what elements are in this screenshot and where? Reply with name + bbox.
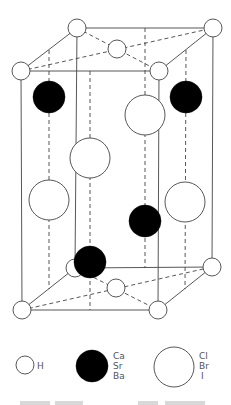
legend-label-ba: Ba [113,371,125,381]
legend-metal-icon [76,350,108,382]
edge-bottom-left [22,268,75,310]
atom-hydride [150,62,168,80]
atom-hydride [68,19,86,37]
atom-metal [74,246,106,278]
atom-metal [170,81,202,113]
hydride-atoms [12,19,222,319]
unit-cell-edges [21,28,213,310]
legend-hydride-icon [16,356,34,374]
caption-fragment [55,401,83,405]
atom-hydride [12,62,30,80]
crystal-structure-diagram: H Ca Sr Ba Cl Br I [0,0,231,405]
legend-item-halide: Cl Br I [154,347,209,387]
atom-halide [165,182,205,222]
legend-label-sr: Sr [113,361,123,371]
atom-hydride [13,301,31,319]
legend-label-i: I [201,371,204,381]
legend: H Ca Sr Ba Cl Br I [16,347,209,387]
atom-hydride [149,301,167,319]
cropped-caption [20,401,205,405]
atom-hydride [204,19,222,37]
caption-fragment [165,401,205,405]
atom-metal [129,205,161,237]
atom-hydride [203,258,221,276]
legend-halide-icon [154,347,194,387]
edge-vertical-front-left [21,71,22,310]
halide-atoms [29,95,205,222]
legend-label-ca: Ca [113,351,125,361]
atom-halide [125,95,165,135]
atom-halide [70,138,110,178]
atom-hydride [107,279,125,297]
caption-fragment [138,401,158,405]
legend-label-cl: Cl [199,351,208,361]
legend-label-br: Br [199,361,209,371]
edge-vertical-back-right [212,28,213,267]
atom-halide [29,180,69,220]
atom-metal [33,81,65,113]
atom-hydride [108,40,126,58]
legend-item-metal: Ca Sr Ba [76,350,125,382]
legend-item-hydride: H [16,356,44,374]
caption-fragment [20,401,50,405]
legend-label-h: H [37,361,44,371]
